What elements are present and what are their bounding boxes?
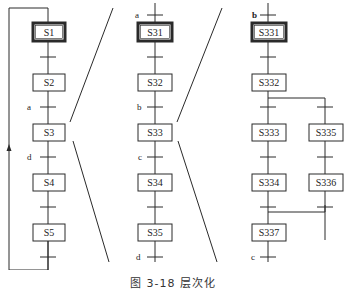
figure-caption: 图 3-18 层次化: [0, 274, 346, 290]
step-s5-label: S5: [44, 227, 55, 238]
step-s35-label: S35: [147, 227, 163, 238]
condition-c-exit-label: c: [251, 252, 255, 262]
step-s331-label: S331: [259, 27, 280, 38]
condition-c-label: c: [138, 152, 142, 162]
condition-a-label: a: [27, 102, 31, 112]
sfc-hierarchy-diagram: S1 S2 S3 S4 S5 S31 S32 S33 S34 S35 S331 …: [0, 0, 346, 270]
expand-line-top-1: [70, 8, 113, 122]
step-s334-label: S334: [259, 177, 280, 188]
step-s32-label: S32: [147, 77, 163, 88]
step-s31-label: S31: [147, 27, 163, 38]
step-s335-label: S335: [316, 127, 337, 138]
expand-line-top-2: [177, 8, 222, 122]
condition-a-entry-label: a: [135, 10, 139, 20]
step-s4-label: S4: [44, 177, 55, 188]
step-s332-label: S332: [259, 77, 280, 88]
step-s3-label: S3: [44, 127, 55, 138]
step-s1-label: S1: [44, 27, 55, 38]
step-s2-label: S2: [44, 77, 55, 88]
loop-arrow-icon: [7, 144, 12, 151]
condition-b-label: b: [137, 102, 142, 112]
expand-line-bottom-1: [73, 141, 109, 262]
condition-b-entry-label: b: [252, 10, 257, 20]
step-s33-label: S33: [147, 127, 163, 138]
condition-d-label: d: [27, 152, 32, 162]
step-s336-label: S336: [316, 177, 337, 188]
branch-line-right: [268, 98, 325, 240]
step-s337-label: S337: [259, 227, 280, 238]
step-s34-label: S34: [147, 177, 163, 188]
merge-line: [268, 205, 325, 212]
condition-d-exit-label: d: [136, 252, 141, 262]
expand-line-bottom-2: [178, 141, 217, 262]
step-s333-label: S333: [259, 127, 280, 138]
